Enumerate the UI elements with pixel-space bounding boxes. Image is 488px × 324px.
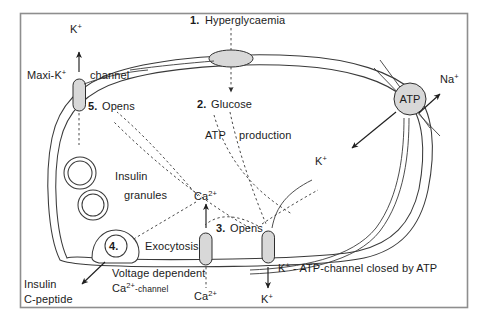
step4-label: Exocytosis: [145, 240, 199, 252]
k-atp-channel: [262, 231, 275, 263]
dashed-ca-to-granules: [117, 112, 198, 196]
ion-ca-outside-label: Ca2+: [194, 289, 218, 302]
atp-production-word: production: [239, 129, 291, 141]
arrow-k-uptake: [352, 112, 396, 148]
leader-k-internal: [272, 180, 312, 228]
dashed-ca-to-exocytosis: [132, 202, 196, 240]
step3-number: 3.: [216, 222, 225, 234]
ca-channel-line: Ca2+-channel: [112, 281, 168, 294]
granule-1: [64, 157, 96, 189]
beta-cell-diagram: 1. Hyperglycaemia 2. Glucose ATP product…: [0, 0, 488, 324]
step1-label: Hyperglycaemia: [205, 14, 286, 26]
voltage-dependent-line: Voltage dependent: [112, 267, 205, 279]
figure-container: 1. Hyperglycaemia 2. Glucose ATP product…: [0, 0, 488, 324]
atp-pump-label: ATP: [400, 93, 421, 105]
glucose-transporter-pore: [209, 50, 253, 67]
ion-k-bottom-label: K+: [261, 292, 273, 305]
atp-production-atp: ATP: [205, 129, 226, 141]
step5-number: 5.: [88, 100, 97, 112]
ion-k-top-label: K+: [70, 22, 82, 35]
voltage-dependent-calcium-channel: [200, 233, 213, 265]
step2-number: 2.: [197, 98, 206, 110]
step5-label: Opens: [102, 100, 135, 112]
maxi-k-channel: [73, 79, 86, 111]
insulin-cpeptide-line1: Insulin: [24, 278, 57, 290]
step4-number: 4.: [109, 240, 118, 252]
maxi-k-label: Maxi-K+: [27, 68, 67, 81]
insulin-granules-line2: granules: [124, 189, 167, 201]
ion-ca-inside-label: Ca2+: [194, 189, 218, 202]
ion-k-inside-label: K+: [315, 154, 327, 167]
step1-number: 1.: [190, 14, 199, 26]
katp-channel-caption: K+ - ATP-channel closed by ATP: [278, 261, 437, 274]
step2-label: Glucose: [211, 98, 252, 110]
ion-na-label: Na+: [440, 72, 459, 85]
channel-word-label: channel: [90, 69, 129, 81]
insulin-granules-line1: Insulin: [115, 170, 148, 182]
granule-2: [78, 190, 108, 220]
step3-label: Opens: [230, 222, 263, 234]
insulin-cpeptide-line2: C-peptide: [24, 293, 73, 305]
